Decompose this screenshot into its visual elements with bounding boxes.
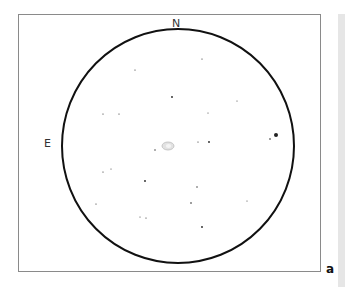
star-dot bbox=[201, 58, 202, 59]
star-field bbox=[95, 58, 278, 228]
star-dot bbox=[208, 141, 210, 143]
field-of-view-circle bbox=[62, 29, 294, 263]
star-dot bbox=[247, 201, 248, 202]
star-dot bbox=[201, 226, 203, 228]
star-dot bbox=[95, 203, 96, 204]
star-dot bbox=[102, 171, 103, 172]
star-dot bbox=[154, 149, 155, 150]
panel-label: a bbox=[326, 262, 334, 276]
planetary-nebula bbox=[162, 142, 174, 150]
star-dot bbox=[171, 96, 173, 98]
star-dot bbox=[196, 186, 197, 187]
star-dot bbox=[144, 180, 146, 182]
star-dot bbox=[208, 113, 209, 114]
star-dot bbox=[145, 217, 146, 218]
eyepiece-sketch bbox=[0, 0, 345, 287]
star-dot bbox=[237, 101, 238, 102]
star-dot bbox=[140, 217, 141, 218]
star-dot bbox=[274, 133, 278, 137]
star-dot bbox=[197, 141, 198, 142]
star-dot bbox=[190, 202, 192, 204]
star-dot bbox=[134, 69, 135, 70]
north-label: N bbox=[172, 17, 180, 30]
star-dot bbox=[269, 138, 271, 140]
star-dot bbox=[111, 169, 112, 170]
star-dot bbox=[102, 113, 103, 114]
east-label: E bbox=[44, 137, 51, 150]
star-dot bbox=[118, 113, 119, 114]
